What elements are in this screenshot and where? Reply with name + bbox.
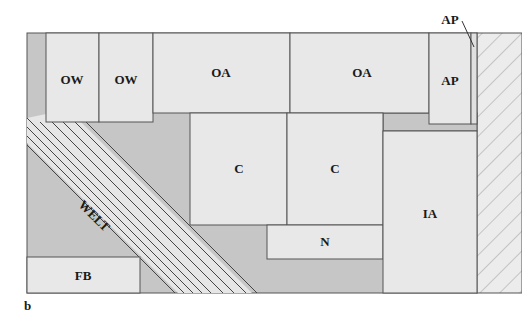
label-ow-1: OW (60, 72, 83, 87)
label-ap-callout: AP (441, 12, 458, 27)
label-ow-2: OW (114, 72, 137, 87)
hatched-region (477, 33, 522, 293)
label-fb: FB (75, 268, 92, 283)
label-c-2: C (330, 161, 339, 176)
floor-plan-diagram: OW OW OA OA AP AP C C N IA FB WELT (0, 0, 522, 316)
label-ia: IA (423, 206, 438, 221)
label-oa-2: OA (352, 65, 372, 80)
label-n: N (320, 234, 330, 249)
label-oa-1: OA (211, 65, 231, 80)
panel-label: b (24, 298, 31, 314)
label-c-1: C (234, 161, 243, 176)
label-ap-main: AP (441, 73, 458, 88)
